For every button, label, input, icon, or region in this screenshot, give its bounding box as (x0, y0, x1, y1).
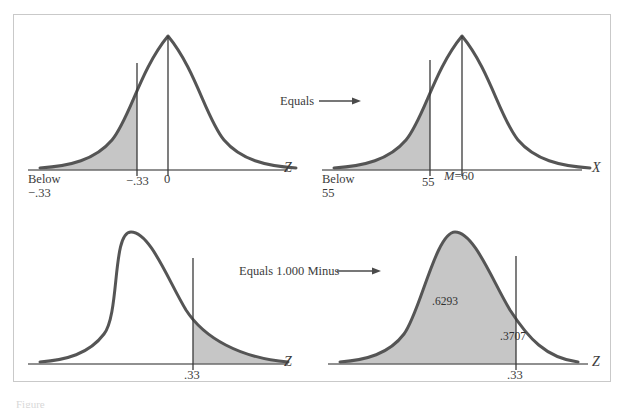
figure-caption-partial: Figure (16, 398, 196, 408)
panel-top-left (28, 36, 296, 176)
curves-canvas (0, 0, 626, 413)
axis-label-top-left: Z (284, 160, 292, 176)
tick-label-top-right-cut: 55 (422, 175, 435, 189)
probability-unshaded-right: .3707 (500, 330, 526, 343)
connector-equals-one-minus-arrow (337, 268, 381, 275)
panel-bottom-right (328, 232, 588, 370)
tick-label-top-left-cut: −.33 (126, 174, 149, 188)
shaded-area-bottom-right (340, 232, 578, 364)
below-label-top-right: Below 55 (322, 172, 355, 200)
axis-label-top-right: X (592, 160, 601, 176)
connector-equals-one-minus-label: Equals 1.000 Minus (239, 264, 339, 278)
below-label-top-left: Below −.33 (28, 172, 61, 200)
panel-bottom-left (28, 232, 288, 370)
connector-equals-label: Equals (280, 94, 314, 108)
panel-top-right (322, 36, 590, 176)
tick-label-top-left-mean: 0 (164, 172, 170, 186)
tick-label-bottom-right-cut: .33 (507, 368, 523, 382)
probability-shaded-left: .6293 (432, 295, 458, 308)
tick-label-bottom-left-cut: .33 (184, 368, 200, 382)
axis-label-bottom-left: Z (284, 354, 292, 370)
normal-curve-figure: Z Below −.33 −.33 0 X Below 55 55 M=60 Z… (0, 0, 626, 413)
normal-curve-bottom-left (40, 232, 288, 362)
axis-label-bottom-right: Z (592, 354, 600, 370)
shaded-area-bottom-left (40, 232, 288, 364)
tick-label-top-right-mean: M=60 (444, 169, 474, 183)
connector-equals-arrow (319, 98, 361, 105)
